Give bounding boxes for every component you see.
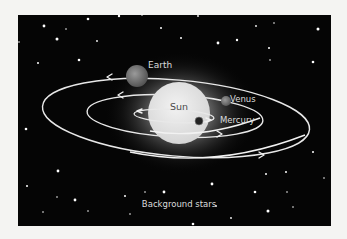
mercury-planet	[195, 117, 203, 125]
venus-label: Venus	[230, 94, 256, 104]
mercury-label: Mercury	[220, 115, 254, 125]
sun-label: Sun	[170, 101, 188, 112]
earth-planet	[126, 65, 148, 87]
earth-label: Earth	[148, 60, 172, 70]
background-stars-label: Background stars	[142, 199, 217, 209]
solar-system-diagram: Earth Sun Venus Mercury Background stars	[0, 0, 347, 239]
